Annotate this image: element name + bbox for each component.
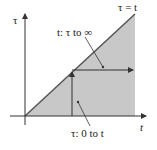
diagonal-label: τ = t (118, 2, 137, 13)
x-axis-label: t (140, 122, 143, 133)
lower-annotation: τ: 0 to t (71, 128, 104, 139)
upper-annotation: t: τ to ∞ (57, 27, 92, 38)
y-axis-label: τ (13, 15, 17, 26)
